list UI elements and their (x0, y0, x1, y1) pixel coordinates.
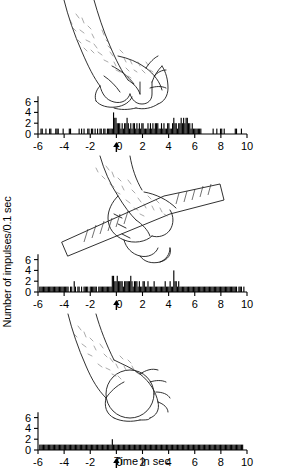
histogram-bar (200, 129, 201, 134)
histogram-bar (119, 123, 120, 134)
histogram-power-grip: 0246-6-4-20246810 (0, 96, 284, 158)
x-tick-label: 10 (241, 140, 253, 152)
histogram-bar (59, 445, 60, 450)
histogram-bar (226, 287, 227, 292)
histogram-bar (131, 129, 132, 134)
histogram-bar (231, 287, 232, 292)
histogram-bar (133, 123, 134, 134)
histogram-bar (187, 287, 188, 292)
histogram-bar (219, 445, 220, 450)
histogram-bar (195, 129, 196, 134)
histogram-bar (104, 287, 105, 292)
histogram-bar (91, 287, 92, 292)
y-tick-label: 6 (25, 254, 31, 266)
histogram-bar (123, 445, 124, 450)
histogram-bar (49, 445, 50, 450)
histogram-bar (75, 287, 76, 292)
histogram-bar (119, 445, 120, 450)
histogram-bar (172, 287, 173, 292)
histogram-bar (55, 129, 56, 134)
histogram-bar (130, 123, 131, 134)
histogram-bar (120, 281, 121, 292)
histogram-bar (156, 445, 157, 450)
histogram-bar (91, 129, 92, 134)
histogram-bar (58, 287, 59, 292)
histogram-bar (113, 276, 114, 292)
histogram-bar (71, 287, 72, 292)
histogram-bar (214, 287, 215, 292)
histogram-bar (87, 287, 88, 292)
histogram-bar (115, 445, 116, 450)
histogram-bar (45, 445, 46, 450)
histogram-bar (140, 129, 141, 134)
histogram-bar (213, 445, 214, 450)
histogram-bar (122, 445, 123, 450)
histogram-bar (128, 281, 129, 292)
histogram-bar (95, 287, 96, 292)
histogram-bar (107, 287, 108, 292)
histogram-bar (118, 281, 119, 292)
histogram-bar (171, 287, 172, 292)
x-tick-label: -2 (85, 298, 95, 310)
histogram-bar (66, 445, 67, 450)
histogram-bar (131, 281, 132, 292)
histogram-bar (192, 287, 193, 292)
histogram-bar (96, 287, 97, 292)
histogram-bar (151, 445, 152, 450)
y-tick-label: 6 (25, 96, 31, 108)
histogram-bar (154, 445, 155, 450)
histogram-bar (177, 129, 178, 134)
histogram-bar (193, 129, 194, 134)
histogram-bar (133, 445, 134, 450)
histogram-bar (203, 287, 204, 292)
histogram-bar (44, 287, 45, 292)
histogram-bar (145, 445, 146, 450)
histogram-bar (144, 129, 145, 134)
x-tick-label: 4 (166, 140, 172, 152)
histogram-bar (87, 129, 88, 134)
x-tick-label: 6 (192, 140, 198, 152)
histogram-bar (213, 129, 214, 134)
histogram-bar (152, 287, 153, 292)
histogram-bar (117, 123, 118, 134)
histogram-bar (109, 287, 110, 292)
histogram-bar (220, 129, 221, 134)
histogram-bar (133, 287, 134, 292)
histogram-bar (52, 287, 53, 292)
histogram-bar (81, 445, 82, 450)
histogram-bar (189, 287, 190, 292)
histogram-bar (213, 287, 214, 292)
histogram-bar (233, 445, 234, 450)
histogram-bar (139, 123, 140, 134)
histogram-bar (70, 129, 71, 134)
histogram-bar (92, 287, 93, 292)
figure-root: Number of impulses/0.1 sec (0, 0, 284, 473)
histogram-bar (71, 445, 72, 450)
histogram-bar (95, 129, 96, 134)
histogram-bar (200, 287, 201, 292)
x-tick-label: 2 (139, 298, 145, 310)
histogram-bar (139, 281, 140, 292)
histogram-bar (149, 287, 150, 292)
histogram-bar (98, 287, 99, 292)
histogram-bar (48, 445, 49, 450)
histogram-bar (225, 287, 226, 292)
histogram-bar (120, 129, 121, 134)
y-tick-label: 2 (25, 433, 31, 445)
histogram-bar (202, 287, 203, 292)
histogram-bar (117, 276, 118, 292)
histogram-bar (65, 287, 66, 292)
histogram-bar (118, 123, 119, 134)
y-tick-label: 2 (25, 117, 31, 129)
histogram-bar (166, 129, 167, 134)
histogram-bar (112, 439, 113, 450)
histogram-bar (114, 118, 115, 134)
histogram-bar (42, 287, 43, 292)
histogram-bar (189, 123, 190, 134)
histogram-bar (97, 129, 98, 134)
histogram-bar (204, 445, 205, 450)
histogram-bar (81, 287, 82, 292)
histogram-bar (190, 129, 191, 134)
histogram-bar (101, 445, 102, 450)
histogram-bar (179, 445, 180, 450)
